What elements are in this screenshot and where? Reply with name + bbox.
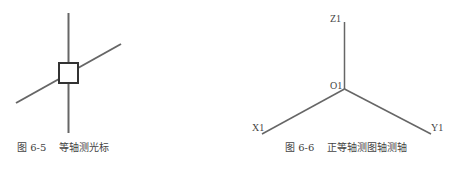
cursor-pickbox-square — [59, 63, 78, 83]
figure-6-6-caption: 图 6-6 正等轴测图轴测轴 — [285, 142, 407, 154]
o1-origin-label: O1 — [330, 80, 342, 91]
isometric-cursor-figure — [16, 13, 121, 133]
isometric-axes-figure: Z1 O1 X1 Y1 — [252, 13, 443, 134]
y1-axis-label: Y1 — [431, 122, 443, 133]
z1-axis-label: Z1 — [330, 13, 341, 24]
cursor-inclined-line-lower — [16, 79, 59, 103]
x1-axis-label: X1 — [252, 122, 264, 133]
x1-axis-line — [262, 89, 345, 134]
figure-6-5-caption: 图 6-5 等轴测光标 — [17, 142, 109, 154]
y1-axis-line — [345, 89, 432, 134]
cursor-inclined-line-upper — [78, 44, 121, 68]
